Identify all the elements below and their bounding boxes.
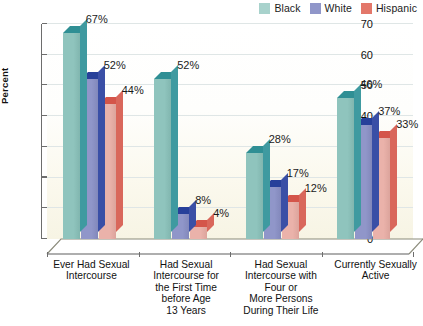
x-label-category-1: Had SexualIntercourse forthe First Timeb… [139,259,234,326]
x-axis-labels: Ever Had SexualIntercourse Had SexualInt… [44,259,423,326]
y-axis-title: Percent [0,68,10,104]
y-tick-60 [42,54,47,55]
bar-black-group-0 [63,33,80,239]
bar-value-label-black-group-1: 52% [177,60,199,71]
bar-side-face [372,111,379,232]
y-tick-30 [42,146,47,147]
bar-side-face [299,188,306,232]
bar-side-face [98,65,105,232]
legend-label-black: Black [274,3,300,14]
bar-side-face [281,173,288,232]
bar-face [63,33,80,239]
y-tick-40 [42,115,47,116]
bar-side-face [354,84,361,232]
bar-chart: Black White Hispanic 67%52%44%52%8%4%28%… [0,0,423,326]
bar-side-face [80,19,87,232]
bar-face [246,153,263,239]
y-tick-20 [42,176,47,177]
legend-label-hispanic: Hispanic [376,3,417,14]
bar-face [337,98,354,239]
y-tick-label-70: 70 [347,19,373,29]
bar-value-label-black-group-0: 67% [86,14,108,25]
bar-value-label-white-group-0: 52% [104,60,126,71]
bar-value-label-hispanic-group-3: 33% [396,119,418,130]
y-tick-50 [42,84,47,85]
legend-swatch-hispanic [361,3,372,14]
bar-side-face [390,124,397,232]
y-axis [41,24,48,239]
x-tick-0 [47,252,48,257]
bar-side-face [116,90,123,232]
y-tick-label-60: 60 [347,50,373,60]
bar-face [190,227,207,239]
x-tick-1 [139,252,140,257]
x-label-category-0: Ever Had SexualIntercourse [44,259,139,326]
bar-value-label-black-group-2: 28% [269,134,291,145]
bar-black-group-3 [337,98,354,239]
bar-value-label-white-group-2: 17% [287,168,309,179]
legend-item-hispanic: Hispanic [361,3,417,14]
bar-side-face [263,139,270,232]
bar-hispanic-group-1 [190,227,207,239]
bar-value-label-hispanic-group-1: 4% [213,208,229,219]
bar-value-label-white-group-3: 37% [378,106,400,117]
bar-value-label-hispanic-group-0: 44% [122,85,144,96]
bar-value-label-white-group-1: 8% [195,195,211,206]
x-tick-4 [413,252,414,257]
bar-value-label-black-group-3: 46% [360,79,382,90]
chart-legend: Black White Hispanic [259,3,417,14]
x-label-category-2: Had SexualIntercourse withFour orMore Pe… [234,259,329,326]
bar-black-group-2 [246,153,263,239]
bar-face [154,79,171,239]
x-tick-3 [322,252,323,257]
y-tick-10 [42,207,47,208]
bar-side-face [171,65,178,232]
legend-label-white: White [325,3,352,14]
bar-black-group-1 [154,79,171,239]
bar-value-label-hispanic-group-2: 12% [305,183,327,194]
legend-swatch-white [310,3,321,14]
legend-swatch-black [259,3,270,14]
x-tick-2 [230,252,231,257]
y-tick-70 [42,23,47,24]
legend-item-black: Black [259,3,300,14]
x-label-category-3: Currently SexuallyActive [328,259,423,326]
legend-item-white: White [310,3,352,14]
